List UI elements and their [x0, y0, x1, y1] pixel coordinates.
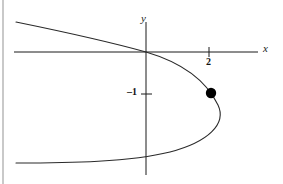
- coordinate-plot: [0, 0, 283, 184]
- y-axis-label: y: [141, 13, 146, 24]
- parabola-curve: [16, 22, 220, 163]
- x-axis-label: x: [263, 43, 268, 54]
- marked-point: [206, 88, 216, 98]
- y-tick-label-negative-1: –1: [127, 87, 137, 97]
- x-tick-label-2: 2: [206, 57, 211, 67]
- graph-figure: y x 2 –1: [0, 0, 283, 184]
